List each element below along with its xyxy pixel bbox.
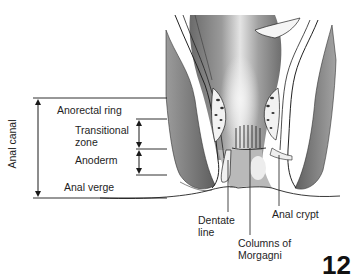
canal-highlight <box>250 156 266 180</box>
columns-of-morgagni-label-line2: Morgagni <box>238 249 282 261</box>
anoderm-label: Anoderm <box>75 154 118 166</box>
anorectal-ring-label: Anorectal ring <box>57 104 122 116</box>
anal-crypt-label: Anal crypt <box>272 208 319 220</box>
anal-canal-label: Anal canal <box>6 119 18 168</box>
external-sphincter-right <box>295 25 336 189</box>
figure-number: 12 <box>322 252 351 278</box>
anoderm-arrow <box>136 150 142 174</box>
right-wall-inner <box>280 20 310 150</box>
columns-of-morgagni-label-line1: Columns of <box>238 237 291 249</box>
columns-of-morgagni <box>236 125 260 148</box>
anal-verge-label: Anal verge <box>64 181 114 193</box>
right-crypt-channel <box>270 148 292 160</box>
dentate-line-label-line1: Dentate <box>198 214 235 226</box>
transitional-zone-arrow <box>136 120 142 148</box>
anal-canal-arrow <box>35 99 41 197</box>
transitional-zone-label-line1: Transitional <box>75 124 129 136</box>
transitional-zone-label-line2: zone <box>75 136 98 148</box>
dentate-line-label-line2: line <box>198 226 214 238</box>
